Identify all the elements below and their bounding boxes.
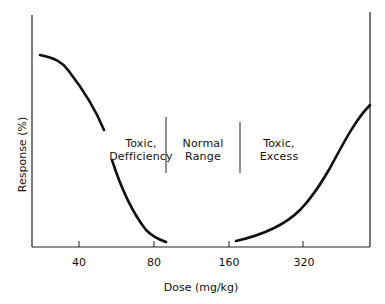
excess-curve [236, 105, 370, 241]
region-label-line: Excess [244, 150, 314, 163]
region-label-line: Toxic, [244, 137, 314, 150]
x-tick-label: 40 [59, 256, 99, 269]
x-axis-label: Dose (mg/kg) [141, 281, 261, 294]
region-label-line: Normal [170, 137, 236, 150]
region-label-line: Range [170, 150, 236, 163]
region-label-normal: Normal Range [170, 137, 236, 163]
region-label-excess: Toxic, Excess [244, 137, 314, 163]
x-tick-label: 320 [284, 256, 324, 269]
y-axis-label: Response (%) [16, 105, 29, 205]
x-tick-label: 80 [134, 256, 174, 269]
x-tick-label: 160 [209, 256, 249, 269]
